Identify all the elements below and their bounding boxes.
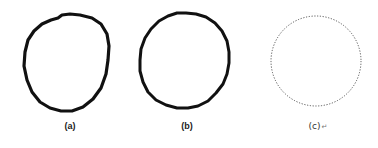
shape-b-near-circle-contour — [140, 13, 229, 108]
panel-label-a: (a) — [65, 121, 76, 131]
panel-label-b: (b) — [181, 121, 193, 131]
panel-label-c: (c) — [309, 121, 321, 131]
return-mark-icon: ↵ — [322, 123, 328, 131]
shape-a-irregular-contour — [24, 14, 109, 111]
shape-c-dotted-circle — [271, 16, 361, 106]
panel-label-c-wrap: (c)↵ — [309, 121, 328, 131]
